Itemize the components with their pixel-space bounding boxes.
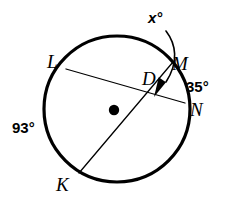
- geometry-figure: L K M N D x° 35° 93°: [0, 0, 226, 204]
- vertex-label-N: N: [190, 100, 203, 119]
- angle-label-arc-mn: 35°: [186, 79, 209, 94]
- vertex-label-D: D: [142, 69, 156, 88]
- vertex-label-L: L: [47, 52, 58, 71]
- angle-label-arc-kl: 93°: [12, 120, 35, 135]
- chord-LN: [66, 69, 185, 103]
- angle-label-x: x°: [148, 10, 162, 25]
- vertex-label-M: M: [172, 54, 188, 73]
- vertex-label-K: K: [56, 175, 69, 194]
- circle-center-point: [109, 105, 119, 115]
